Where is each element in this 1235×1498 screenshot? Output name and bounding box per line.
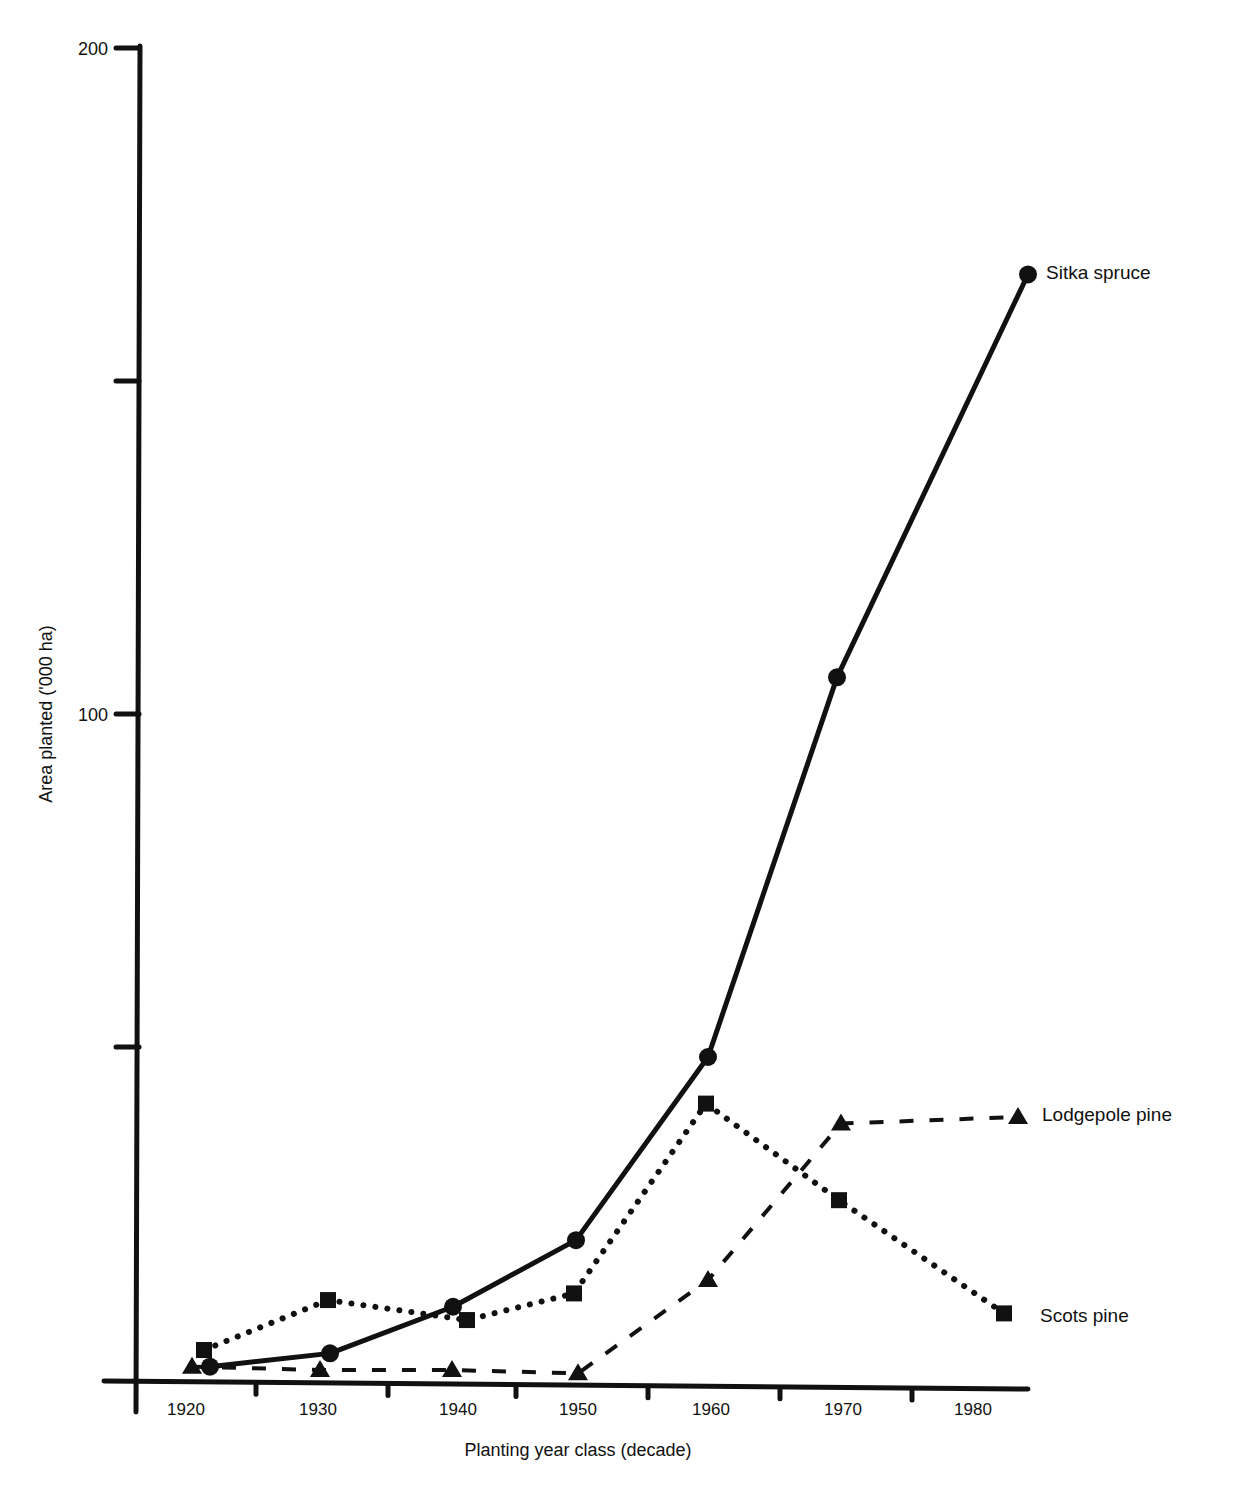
x-tick-label: 1970 bbox=[824, 1400, 862, 1419]
x-tick-label: 1920 bbox=[167, 1400, 205, 1419]
x-tick-label: 1960 bbox=[692, 1400, 730, 1419]
x-tick-label: 1980 bbox=[954, 1400, 992, 1419]
square-marker-icon bbox=[996, 1305, 1012, 1321]
square-marker-icon bbox=[698, 1096, 714, 1112]
square-marker-icon bbox=[831, 1192, 847, 1208]
y-tick-label: 200 bbox=[78, 39, 108, 59]
circle-marker-icon bbox=[321, 1344, 339, 1362]
axes: 1002001920193019401950196019701980Planti… bbox=[36, 39, 1028, 1460]
y-axis-label: Area planted ('000 ha) bbox=[36, 625, 56, 803]
chart: 1002001920193019401950196019701980Planti… bbox=[0, 0, 1235, 1498]
series-layer bbox=[182, 265, 1037, 1380]
triangle-marker-icon bbox=[1008, 1107, 1028, 1124]
circle-marker-icon bbox=[567, 1231, 585, 1249]
x-tick-label: 1930 bbox=[299, 1400, 337, 1419]
y-axis-line bbox=[136, 46, 140, 1412]
lodgepole-pine-legend-label: Lodgepole pine bbox=[1042, 1104, 1172, 1125]
lodgepole-pine-line bbox=[192, 1117, 1018, 1373]
square-marker-icon bbox=[566, 1285, 582, 1301]
scots-pine-legend-label: Scots pine bbox=[1040, 1305, 1129, 1326]
triangle-marker-icon bbox=[698, 1270, 718, 1287]
sitka-spruce-legend-label: Sitka spruce bbox=[1046, 262, 1151, 283]
square-marker-icon bbox=[196, 1342, 212, 1358]
labels-layer: Sitka spruceScots pineLodgepole pine bbox=[1040, 262, 1172, 1326]
circle-marker-icon bbox=[699, 1048, 717, 1066]
sitka-spruce-line bbox=[210, 274, 1028, 1366]
y-tick-label: 100 bbox=[78, 705, 108, 725]
x-tick-label: 1940 bbox=[439, 1400, 477, 1419]
x-axis-label: Planting year class (decade) bbox=[464, 1440, 691, 1460]
x-axis-line bbox=[104, 1381, 1028, 1389]
square-marker-icon bbox=[320, 1292, 336, 1308]
circle-marker-icon bbox=[828, 668, 846, 686]
circle-marker-icon bbox=[1019, 265, 1037, 283]
x-tick-label: 1950 bbox=[559, 1400, 597, 1419]
scots-pine-line bbox=[204, 1104, 1004, 1350]
square-marker-icon bbox=[459, 1312, 475, 1328]
line-chart: 1002001920193019401950196019701980Planti… bbox=[0, 0, 1235, 1498]
